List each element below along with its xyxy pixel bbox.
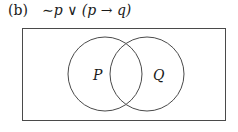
set-q-circle bbox=[110, 37, 184, 111]
set-p-circle bbox=[68, 37, 142, 111]
venn-diagram: P Q bbox=[0, 0, 238, 132]
set-q-label: Q bbox=[153, 67, 165, 83]
set-p-label: P bbox=[92, 67, 103, 83]
